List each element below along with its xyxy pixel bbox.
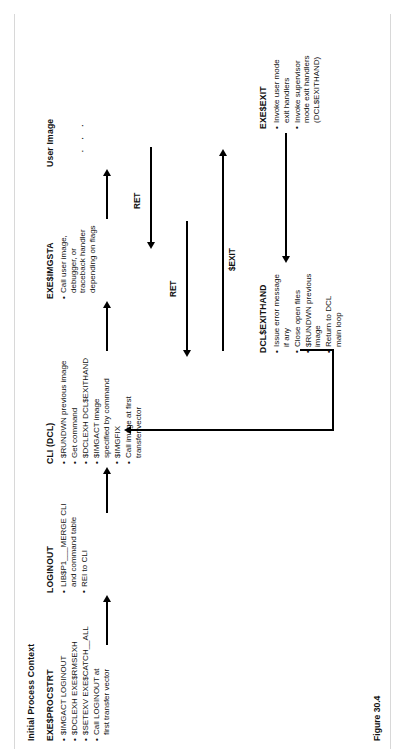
bullet: Issue error message if any [272, 274, 291, 353]
bullet: Call user image, debugger, or traceback … [59, 225, 97, 299]
bullet: $IMGACT image specified by command [92, 358, 111, 464]
label-exit: $EXIT [228, 248, 237, 271]
rotated-figure-wrapper: Initial Process Context EXE$PROCSTRT $IM… [0, 0, 403, 749]
page-edge-top [14, 14, 15, 749]
arrow-return-horizontal [332, 349, 334, 431]
arrowhead-right [103, 169, 111, 176]
bullet: LIB$P1___MERGE CLI and command table [59, 503, 78, 593]
block-cli-dcl-bullets: $RUNDWN previous image Get command $DCLE… [59, 358, 143, 464]
block-exeexit-bullets: Invoke user mode exit handlers Invoke su… [272, 55, 321, 129]
bullet: $DCLEXH EXE$RMSEXH [70, 626, 80, 741]
block-loginout-bullets: LIB$P1___MERGE CLI and command table REI… [59, 503, 89, 593]
arrow-cli-to-imgsta [106, 307, 108, 351]
arrow-imgsta-to-userimage [106, 175, 108, 219]
block-exeimgsta-bullets: Call user image, debugger, or traceback … [59, 225, 97, 299]
block-cli-dcl: CLI (DCL) $RUNDWN previous image Get com… [45, 358, 145, 464]
bullet: $IMGFIX [113, 358, 123, 464]
arrow-ret-lower [186, 221, 188, 351]
arrowhead-right [103, 595, 111, 602]
block-dclexithand: DCL$EXITHAND Issue error message if any … [258, 274, 345, 353]
bullet: Close open files [293, 274, 303, 353]
arrow-exit [222, 155, 224, 351]
label-ret-lower: RET [169, 281, 178, 297]
block-exeexit: EXE$EXIT Invoke user mode exit handlers … [258, 55, 323, 129]
arrowhead-right [103, 467, 111, 474]
arrowhead-left [282, 256, 290, 263]
label-ret-upper: RET [133, 193, 142, 209]
page-edge-bottom [390, 14, 391, 749]
figure-canvas: Initial Process Context EXE$PROCSTRT $IM… [0, 0, 403, 749]
context-title: Initial Process Context [26, 644, 37, 741]
arrow-loginout-to-cli [106, 473, 108, 513]
bullet: $IMGACT LOGINOUT [59, 626, 69, 741]
arrow-exithand-stub [300, 349, 334, 351]
figure-page: Initial Process Context EXE$PROCSTRT $IM… [0, 0, 403, 749]
arrowhead-left [147, 242, 155, 249]
bullet: $SETEXV EXE$CATCH__ALL [81, 626, 91, 741]
bullet: $RUNDWN previous image [304, 274, 323, 353]
figure-caption: Figure 30.4 [372, 696, 382, 741]
block-loginout: LOGINOUT LIB$P1___MERGE CLI and command … [45, 503, 91, 593]
arrowhead-up [124, 426, 131, 434]
bullet: Call image at first transfer vector [124, 358, 143, 464]
bullet: Invoke supervisor mode exit handlers (DC… [293, 55, 322, 129]
bullet: Call LOGINOUT at first transfer vector [92, 626, 111, 741]
arrowhead-right [219, 149, 227, 156]
block-dclexithand-bullets: Issue error message if any Close open fi… [272, 274, 344, 353]
bullet: $RUNDWN previous image [59, 358, 69, 464]
bullet: Get command [70, 358, 80, 464]
arrow-return-vertical [130, 429, 334, 431]
bullet: Invoke user mode exit handlers [272, 55, 291, 129]
vertical-ellipsis: · · · [78, 121, 87, 153]
block-exeimgsta: EXE$IMGSTA Call user image, debugger, or… [45, 225, 99, 299]
arrowhead-left [183, 350, 191, 357]
arrow-exeexit-to-exithand [285, 133, 287, 257]
block-user-image: User Image [45, 119, 56, 167]
arrow-ret-upper [150, 147, 152, 243]
bullet: REI to CLI [80, 503, 90, 593]
arrow-procstrt-to-loginout [106, 601, 108, 645]
block-exeprocstrt: EXE$PROCSTRT $IMGACT LOGINOUT $DCLEXH EX… [45, 626, 113, 741]
bullet: Return to DCL main loop [324, 274, 343, 353]
arrowhead-right [103, 301, 111, 308]
bullet: $DCLEXH DCL$EXITHAND [81, 358, 91, 464]
block-exeprocstrt-bullets: $IMGACT LOGINOUT $DCLEXH EXE$RMSEXH $SET… [59, 626, 111, 741]
